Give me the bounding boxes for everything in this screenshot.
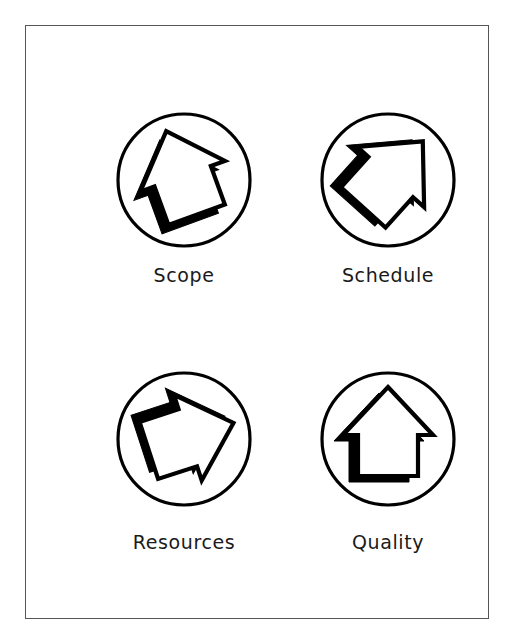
scope-icon-svg	[84, 104, 284, 259]
diagram-item-label-scope: Scope	[84, 264, 284, 286]
circled-up-arrow-icon-quality	[288, 363, 488, 518]
diagram-item-scope[interactable]: Scope	[84, 104, 284, 334]
circled-up-arrow-icon-scope	[84, 104, 284, 259]
diagram-item-schedule[interactable]: Schedule	[288, 104, 488, 334]
diagram-item-resources[interactable]: Resources	[84, 363, 284, 593]
circled-right-arrow-icon-resources	[84, 363, 284, 518]
quality-icon-svg	[288, 363, 488, 518]
diagram-item-label-quality: Quality	[288, 531, 488, 553]
diagram-frame: Scope Schedule	[25, 25, 489, 619]
diagram-item-quality[interactable]: Quality	[288, 363, 488, 593]
resources-icon-svg	[84, 363, 284, 518]
figure-canvas: Scope Schedule	[0, 0, 525, 636]
schedule-icon-svg	[288, 104, 488, 259]
diagram-item-label-schedule: Schedule	[288, 264, 488, 286]
circled-up-right-arrow-icon-schedule	[288, 104, 488, 259]
diagram-item-label-resources: Resources	[84, 531, 284, 553]
